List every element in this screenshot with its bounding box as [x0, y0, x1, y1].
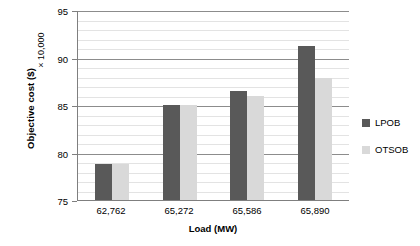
legend-swatch-icon [362, 146, 370, 154]
bar-lpob [230, 91, 247, 200]
x-axis-tick-labels: 62,76265,27265,58665,890 [77, 205, 349, 216]
plot-area [77, 11, 349, 201]
y-axis-multiplier-label: × 10,000 [36, 5, 46, 95]
y-axis-tick-label: 85 [38, 101, 68, 112]
bar-group [163, 11, 197, 200]
x-axis-tick-label: 65,272 [145, 205, 213, 216]
bar-otsob [180, 105, 197, 200]
legend-label: OTSOB [375, 144, 408, 155]
x-axis-tick-label: 65,890 [281, 205, 349, 216]
y-axis-tick-label: 90 [38, 53, 68, 64]
legend-swatch-icon [362, 119, 370, 127]
bar-lpob [298, 46, 315, 200]
x-axis-tick-label: 65,586 [213, 205, 281, 216]
bar-group [230, 11, 264, 200]
x-axis-title: Load (MW) [77, 223, 349, 234]
bar-otsob [112, 164, 129, 200]
y-axis-tick-mark [72, 201, 77, 202]
legend: LPOBOTSOB [362, 117, 408, 171]
bar-otsob [315, 78, 332, 200]
y-axis-tick-label: 80 [38, 148, 68, 159]
y-axis-tick-label: 95 [38, 6, 68, 17]
bar-series-group [78, 11, 349, 200]
y-axis-title: Objective cost ($) [25, 19, 36, 199]
bar-lpob [163, 105, 180, 200]
legend-item-otsob[interactable]: OTSOB [362, 144, 408, 155]
bar-lpob [95, 164, 112, 200]
bar-group [298, 11, 332, 200]
legend-item-lpob[interactable]: LPOB [362, 117, 408, 128]
x-axis-tick-label: 62,762 [77, 205, 145, 216]
legend-label: LPOB [375, 117, 400, 128]
bar-group [95, 11, 129, 200]
bar-otsob [247, 96, 264, 201]
bar-chart: Objective cost ($) × 10,000 7580859095 6… [0, 0, 420, 246]
y-axis-tick-label: 75 [38, 196, 68, 207]
